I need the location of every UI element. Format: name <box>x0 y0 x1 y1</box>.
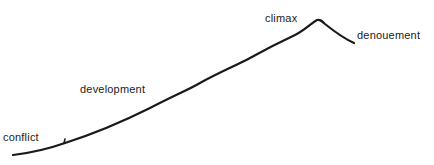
label-denouement: denouement <box>357 29 420 41</box>
plot-arc-line <box>0 0 434 165</box>
label-development: development <box>80 83 145 95</box>
plot-arc-diagram: conflict development climax denouement <box>0 0 434 165</box>
label-conflict: conflict <box>3 131 39 143</box>
tick-mark <box>64 139 65 143</box>
label-climax: climax <box>265 12 297 24</box>
